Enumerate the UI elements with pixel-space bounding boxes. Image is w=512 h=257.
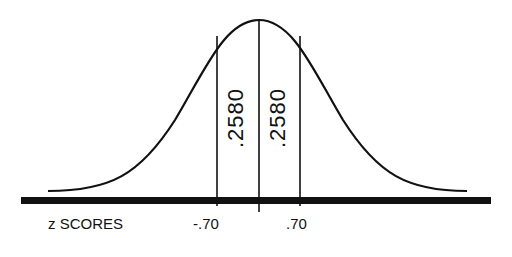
tick-label-neg: -.70 bbox=[193, 215, 219, 232]
area-label-left: .2580 bbox=[223, 88, 249, 148]
tick-label-pos: .70 bbox=[286, 215, 307, 232]
normal-curve bbox=[48, 20, 467, 191]
axis-label: z SCORES bbox=[48, 215, 123, 232]
area-label-right: .2580 bbox=[265, 88, 291, 148]
baseline-axis bbox=[21, 197, 491, 204]
